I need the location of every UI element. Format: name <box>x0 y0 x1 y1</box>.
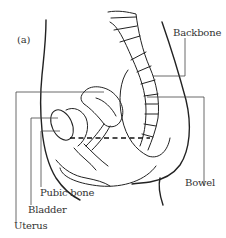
bladder-outer <box>66 108 88 146</box>
spine-outer <box>108 11 159 150</box>
back-outline <box>132 22 189 184</box>
label-bladder: Bladder <box>28 205 67 215</box>
vertebrae-lines <box>111 17 158 137</box>
vaginal-walls <box>74 144 108 170</box>
uterus-cavity <box>96 98 116 116</box>
cervix-canal <box>86 124 110 150</box>
label-bowel: Bowel <box>185 178 215 188</box>
label-pubic-bone: Pubic bone <box>40 188 94 198</box>
pelvic-anatomy-diagram: (a) Backbone Bowel Pubic bone Bladder Ut… <box>0 0 226 238</box>
perineum-curve <box>56 160 110 186</box>
label-uterus: Uterus <box>14 221 48 231</box>
label-backbone: Backbone <box>173 28 221 38</box>
buttock-outline <box>159 178 163 205</box>
panel-label: (a) <box>17 35 30 45</box>
